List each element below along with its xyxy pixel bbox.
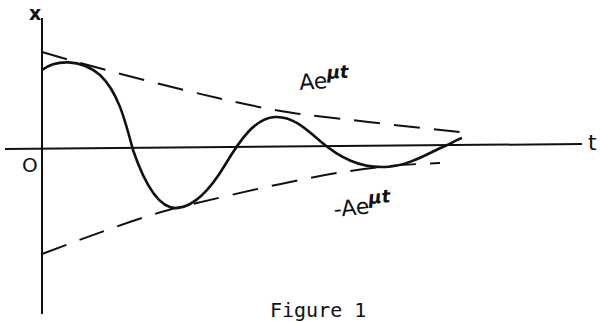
oscillation-curve <box>42 62 462 208</box>
upper-envelope-exponent: μt <box>326 61 349 83</box>
upper-envelope-base: Ae <box>298 68 328 95</box>
t-axis-horizontal <box>5 144 582 149</box>
upper-envelope-curve <box>42 52 460 132</box>
lower-envelope-base: -Ae <box>332 193 370 222</box>
lower-envelope-exponent: μt <box>367 185 391 208</box>
horizontal-axis-label: t <box>588 130 597 155</box>
vertical-axis-label: x <box>29 2 41 24</box>
upper-envelope-label: Aeμt <box>298 67 350 95</box>
figure-caption: Figure 1 <box>270 298 366 322</box>
origin-label: O <box>22 153 38 177</box>
